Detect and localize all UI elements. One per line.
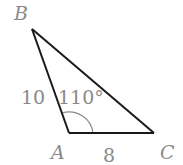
angle-label: 110° bbox=[58, 86, 104, 108]
vertex-label-a: A bbox=[49, 141, 65, 163]
side-label-ab: 10 bbox=[21, 86, 45, 108]
vertex-label-b: B bbox=[13, 2, 28, 24]
angle-arc bbox=[62, 112, 93, 133]
side-label-ac: 8 bbox=[103, 144, 115, 165]
triangle-diagram: B A C 10 8 110° bbox=[0, 0, 183, 165]
vertex-label-c: C bbox=[160, 141, 175, 163]
